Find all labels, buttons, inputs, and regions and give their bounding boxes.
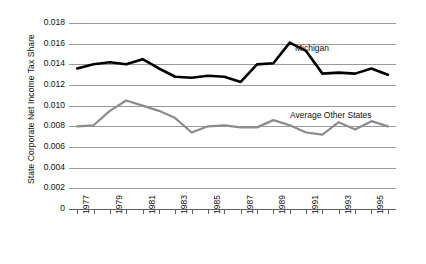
x-tick-label: 1989 [277,195,287,214]
x-tick-label: 1981 [147,195,157,214]
y-tick-label: 0.008 [19,121,65,130]
y-tick-label: 0 [19,204,65,213]
x-tick-label: 1979 [114,195,124,214]
x-tick [322,209,323,214]
x-tick [94,209,95,214]
series-line-michigan [77,43,388,82]
x-tick [175,209,176,214]
x-tick [339,209,340,214]
series-label-michigan: Michigan [295,43,329,53]
x-tick [388,209,389,214]
y-tick-label: 0.018 [19,18,65,27]
y-tick-label: 0.006 [19,142,65,151]
x-tick [224,209,225,214]
x-tick [241,209,242,214]
x-tick-label: 1995 [375,195,385,214]
y-axis-tick-labels: 0.0180.0160.0140.0120.0100.0080.0060.004… [17,0,65,264]
x-tick [110,209,111,214]
series-label-average-other-states: Average Other States [290,110,372,120]
x-tick-label: 1993 [343,195,353,214]
x-tick [143,209,144,214]
y-tick-label: 0.010 [19,101,65,110]
x-tick-label: 1991 [310,195,320,214]
y-tick-label: 0.016 [19,39,65,48]
x-tick [192,209,193,214]
x-tick-label: 1977 [81,195,91,214]
x-tick-label: 1985 [212,195,222,214]
x-tick [290,209,291,214]
x-tick [77,209,78,214]
x-tick [208,209,209,214]
y-tick-label: 0.012 [19,80,65,89]
x-tick [257,209,258,214]
y-tick-label: 0.004 [19,163,65,172]
x-tick [371,209,372,214]
x-tick-label: 1987 [245,195,255,214]
x-tick [306,209,307,214]
x-tick [355,209,356,214]
x-tick [126,209,127,214]
line-chart: State Corporate Net Income Tax Share 0.0… [0,0,426,264]
x-tick [159,209,160,214]
x-tick [273,209,274,214]
y-tick-label: 0.014 [19,59,65,68]
y-tick-label: 0.002 [19,183,65,192]
x-tick-label: 1983 [179,195,189,214]
